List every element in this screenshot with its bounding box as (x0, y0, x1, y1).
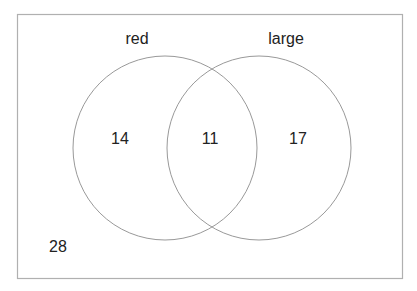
red-only-count: 14 (111, 131, 129, 147)
large-only-count: 17 (289, 131, 307, 147)
set-circle-red (73, 56, 257, 240)
set-circle-large (167, 56, 351, 240)
set-label-large: large (268, 31, 304, 47)
set-label-red: red (125, 31, 148, 47)
intersection-count: 11 (202, 131, 219, 147)
outside-count: 28 (49, 239, 67, 255)
